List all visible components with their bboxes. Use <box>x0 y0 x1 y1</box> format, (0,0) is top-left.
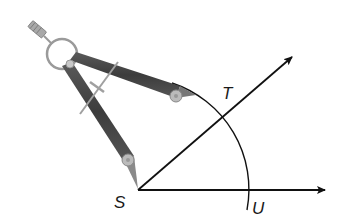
ray-st <box>138 57 292 190</box>
label-s: S <box>114 193 126 212</box>
compass-icon <box>28 21 196 189</box>
label-u: U <box>252 199 265 218</box>
construction-arc <box>172 83 249 210</box>
label-t: T <box>222 84 234 103</box>
angle-construction-diagram: S T U <box>0 0 344 223</box>
